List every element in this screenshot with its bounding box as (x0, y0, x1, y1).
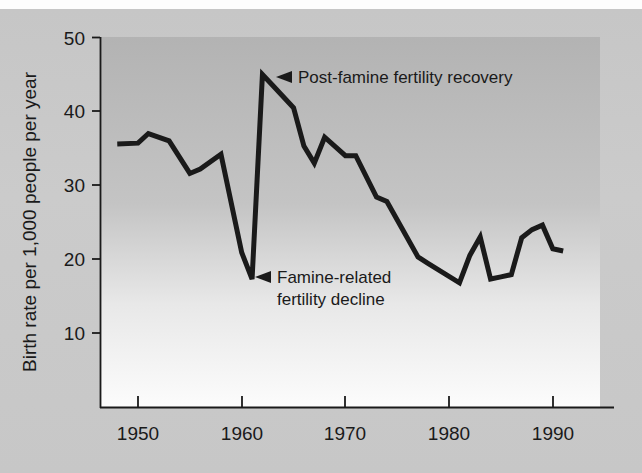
y-axis-ticks (92, 38, 100, 334)
x-tick-label-1990: 1990 (532, 423, 574, 444)
annotation-post-famine-recovery: Post-famine fertility recovery (276, 68, 513, 87)
y-tick-label-40: 40 (64, 101, 85, 122)
x-tick-label-1960: 1960 (221, 423, 263, 444)
y-axis-label: Birth rate per 1,000 people per year (19, 71, 40, 372)
y-tick-label-10: 10 (64, 323, 85, 344)
annotation-famine-decline-line1: Famine-related (277, 268, 391, 287)
plot-area-background (100, 37, 600, 408)
x-tick-label-1970: 1970 (324, 423, 366, 444)
annotation-post-famine-recovery-line1: Post-famine fertility recovery (298, 68, 513, 87)
y-tick-label-30: 30 (64, 175, 85, 196)
y-tick-label-50: 50 (64, 28, 85, 49)
chart-svg: 50 40 30 20 10 Birth rate per 1,000 peop… (0, 0, 642, 473)
x-tick-label-1980: 1980 (428, 423, 470, 444)
annotation-famine-decline-line2: fertility decline (277, 290, 385, 309)
chart-figure: 50 40 30 20 10 Birth rate per 1,000 peop… (0, 0, 642, 473)
x-tick-label-1950: 1950 (117, 423, 159, 444)
y-tick-label-20: 20 (64, 249, 85, 270)
